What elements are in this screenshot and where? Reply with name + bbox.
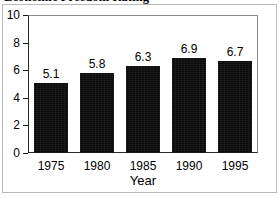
y-axis-label-2: 2 bbox=[0, 119, 20, 131]
x-axis-label-1975: 1975 bbox=[28, 160, 74, 172]
bar-1985 bbox=[126, 66, 160, 153]
bar-value-label-1985: 6.3 bbox=[123, 51, 163, 63]
chart-title: Economic Freedom Rating bbox=[4, 0, 275, 4]
bar-value-label-1995: 6.7 bbox=[215, 46, 255, 58]
x-axis-label-1985: 1985 bbox=[120, 160, 166, 172]
bar-1980 bbox=[80, 73, 114, 153]
bar-1990 bbox=[172, 58, 206, 153]
y-axis-label-10: 10 bbox=[0, 9, 20, 21]
x-axis-title: Year bbox=[28, 174, 258, 188]
chart-figure: Economic Freedom Rating 10 8 6 4 2 0 5.1… bbox=[0, 0, 279, 199]
x-axis-label-1980: 1980 bbox=[74, 160, 120, 172]
x-axis-label-1995: 1995 bbox=[212, 160, 258, 172]
y-axis-label-8: 8 bbox=[0, 37, 20, 49]
y-axis-tick-0 bbox=[23, 153, 28, 154]
y-axis-label-6: 6 bbox=[0, 64, 20, 76]
x-axis-label-1990: 1990 bbox=[166, 160, 212, 172]
bar-value-label-1990: 6.9 bbox=[169, 43, 209, 55]
bar-1975 bbox=[34, 83, 68, 153]
bar-value-label-1980: 5.8 bbox=[77, 58, 117, 70]
y-axis-label-4: 4 bbox=[0, 92, 20, 104]
bar-1995 bbox=[218, 61, 252, 153]
bar-value-label-1975: 5.1 bbox=[31, 68, 71, 80]
y-axis-label-0: 0 bbox=[0, 147, 20, 159]
